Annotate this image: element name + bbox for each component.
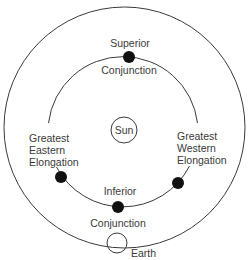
inferior-conjunction-label-line1: Inferior [104, 185, 137, 197]
greatest-western-elongation: Greatest Western Elongation [172, 130, 227, 189]
earth-circle [107, 233, 127, 253]
superior-conjunction-label-line2: Conjunction [101, 64, 157, 76]
greatest-eastern-elongation: Greatest Eastern Elongation [29, 132, 79, 183]
sun: Sun [111, 117, 137, 143]
planetary-configuration-diagram: Sun Superior Conjunction Greatest Easter… [0, 0, 248, 260]
eastern-elongation-label-line1: Greatest [29, 132, 69, 144]
western-elongation-label-line1: Greatest [177, 130, 217, 142]
western-elongation-label-line3: Elongation [177, 154, 227, 166]
planet-superior-conjunction [123, 51, 135, 63]
western-elongation-label-line2: Western [177, 142, 216, 154]
eastern-elongation-label-line3: Elongation [29, 156, 79, 168]
superior-conjunction: Superior Conjunction [101, 37, 157, 76]
earth-label: Earth [131, 247, 156, 259]
planet-greatest-western-elongation [172, 177, 184, 189]
superior-conjunction-label-line1: Superior [110, 37, 150, 49]
sun-label: Sun [115, 124, 134, 136]
inferior-conjunction-label-line2: Conjunction [90, 217, 146, 229]
inferior-conjunction: Inferior Conjunction [90, 185, 146, 229]
planet-inferior-conjunction [112, 201, 124, 213]
planet-greatest-eastern-elongation [55, 171, 67, 183]
eastern-elongation-label-line2: Eastern [29, 144, 65, 156]
